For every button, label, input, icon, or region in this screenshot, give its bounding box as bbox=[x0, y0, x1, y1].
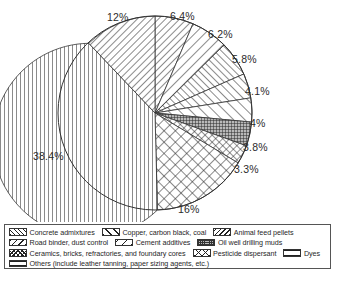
data-label-others: 12% bbox=[107, 11, 129, 23]
legend-row: Others (include leather tanning, paper s… bbox=[9, 259, 327, 269]
chart-legend: Concrete admixtures Copper, carbon black… bbox=[4, 224, 331, 269]
legend-item-dyes: Dyes bbox=[283, 249, 320, 258]
data-label-road-binder-dust-control: 4.1% bbox=[245, 85, 270, 97]
pie-chart-figure: 12% 6.4% 6.2% 5.8% 4.1% 4% 3.8% 3.3% 16%… bbox=[0, 0, 337, 222]
legend-label: Oil well drilling muds bbox=[218, 238, 282, 247]
data-label-pesticide-dispersant: 16% bbox=[178, 203, 200, 215]
data-label-concrete-admixtures: 6.4% bbox=[170, 10, 195, 22]
legend-item-animal-feed-pellets: Animal feed pellets bbox=[213, 228, 293, 237]
legend-swatch-others-icon bbox=[9, 260, 27, 268]
data-label-oil-well-drilling-muds: 3.8% bbox=[243, 141, 268, 153]
legend-swatch-copper-carbon-black-coal-icon bbox=[102, 228, 120, 236]
data-label-cement-additives: 4% bbox=[250, 117, 266, 129]
legend-swatch-concrete-admixtures-icon bbox=[9, 228, 27, 236]
legend-label: Copper, carbon black, coal bbox=[122, 228, 206, 237]
legend-swatch-cement-additives-icon bbox=[115, 239, 133, 247]
legend-label: Others (include leather tanning, paper s… bbox=[30, 259, 210, 268]
legend-row: Concrete admixtures Copper, carbon black… bbox=[9, 227, 327, 237]
data-label-dyes: 38.4% bbox=[33, 150, 64, 162]
data-label-ceramics-bricks-refractories: 3.3% bbox=[234, 163, 259, 175]
legend-label: Ceramics, bricks, refractories, and foun… bbox=[30, 249, 186, 258]
legend-swatch-animal-feed-pellets-icon bbox=[213, 228, 231, 236]
data-label-animal-feed-pellets: 5.8% bbox=[232, 53, 257, 65]
legend-item-cement-additives: Cement additives bbox=[115, 238, 190, 247]
legend-item-oil-well-drilling-muds: Oil well drilling muds bbox=[197, 238, 282, 247]
legend-item-concrete-admixtures: Concrete admixtures bbox=[9, 228, 95, 237]
legend-item-others: Others (include leather tanning, paper s… bbox=[9, 259, 209, 268]
legend-label: Concrete admixtures bbox=[30, 228, 95, 237]
legend-item-road-binder-dust-control: Road binder, dust control bbox=[9, 238, 108, 247]
legend-swatch-dyes-icon bbox=[283, 249, 301, 257]
legend-swatch-pesticide-dispersant-icon bbox=[193, 249, 211, 257]
legend-swatch-oil-well-drilling-muds-icon bbox=[197, 239, 215, 247]
legend-row: Ceramics, bricks, refractories, and foun… bbox=[9, 248, 327, 258]
legend-label: Cement additives bbox=[136, 238, 191, 247]
legend-label: Road binder, dust control bbox=[30, 238, 109, 247]
legend-row: Road binder, dust control Cement additiv… bbox=[9, 238, 327, 248]
legend-item-pesticide-dispersant: Pesticide dispersant bbox=[193, 249, 277, 258]
legend-label: Pesticide dispersant bbox=[213, 249, 276, 258]
legend-label: Dyes bbox=[304, 249, 320, 258]
legend-item-ceramics-bricks-refractories: Ceramics, bricks, refractories, and foun… bbox=[9, 249, 186, 258]
legend-item-copper-carbon-black-coal: Copper, carbon black, coal bbox=[102, 228, 206, 237]
legend-label: Animal feed pellets bbox=[234, 228, 294, 237]
pie-chart-svg bbox=[0, 0, 337, 222]
legend-swatch-road-binder-dust-control-icon bbox=[9, 239, 27, 247]
legend-swatch-ceramics-bricks-refractories-icon bbox=[9, 249, 27, 257]
data-label-copper-carbon-black-coal: 6.2% bbox=[208, 28, 233, 40]
